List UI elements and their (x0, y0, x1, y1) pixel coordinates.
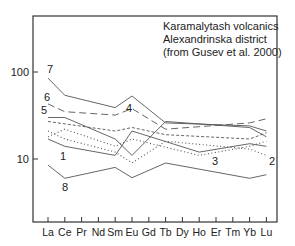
x-tick-label-yb: Yb (243, 226, 256, 238)
title-line-2: Alexandrinska district (163, 33, 282, 46)
series-label-3: 3 (212, 155, 218, 167)
series-label-8: 8 (62, 181, 68, 193)
y-axis: 10100 (11, 66, 38, 165)
x-tick-label-sm: Sm (107, 226, 123, 238)
x-tick-label-er: Er (211, 226, 222, 238)
title-line-1: Karamalytash volcanics (163, 20, 282, 33)
series-labels: 76541328 (41, 63, 275, 193)
series-line-5 (48, 118, 266, 156)
x-tick-label-ho: Ho (192, 226, 206, 238)
x-tick-label-lu: Lu (261, 226, 273, 238)
series-lines (48, 78, 266, 178)
x-tick-label-la: La (42, 226, 54, 238)
series-label-5: 5 (41, 104, 47, 116)
x-tick-label-gd: Gd (142, 226, 156, 238)
x-tick-label-eu: Eu (126, 226, 139, 238)
x-tick-label-tm: Tm (225, 226, 240, 238)
x-tick-label-tb: Tb (159, 226, 171, 238)
series-label-6: 6 (44, 91, 50, 103)
y-tick-label: 10 (17, 153, 29, 165)
series-line-8 (48, 163, 266, 178)
title-line-3: (from Gusev et al. 2000) (163, 46, 282, 59)
series-label-7: 7 (47, 63, 53, 75)
x-axis: LaCePrNdSmEuGdTbDyHoErTmYbLu (42, 217, 272, 238)
y-tick-label: 100 (11, 66, 29, 78)
x-tick-label-dy: Dy (176, 226, 190, 238)
x-tick-label-ce: Ce (58, 226, 72, 238)
series-line-7 (48, 78, 266, 131)
chart-title: Karamalytash volcanics Alexandrinska dis… (163, 20, 282, 59)
series-label-4: 4 (126, 102, 132, 114)
x-tick-label-nd: Nd (92, 226, 106, 238)
series-line-2 (48, 131, 266, 163)
series-label-2: 2 (269, 155, 275, 167)
series-label-1: 1 (60, 150, 66, 162)
x-tick-label-pr: Pr (76, 226, 87, 238)
